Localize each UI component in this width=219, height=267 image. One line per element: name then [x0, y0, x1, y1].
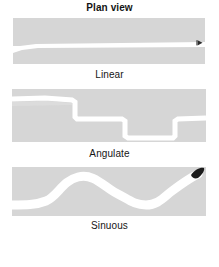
substrate-lower-linear — [13, 47, 205, 64]
plan-view-figure: Plan view Linear Angulate — [0, 0, 219, 267]
caption-sinuous: Sinuous — [0, 220, 219, 231]
linear-channel-diagram — [12, 17, 206, 65]
page-title: Plan view — [0, 2, 219, 13]
panel-linear — [12, 17, 206, 65]
angulate-channel-diagram — [12, 89, 206, 143]
panel-angulate — [12, 89, 206, 143]
substrate-upper-linear — [13, 18, 205, 46]
sinuous-channel-diagram — [12, 167, 206, 217]
panel-sinuous — [12, 167, 206, 217]
caption-linear: Linear — [0, 69, 219, 80]
caption-angulate: Angulate — [0, 148, 219, 159]
